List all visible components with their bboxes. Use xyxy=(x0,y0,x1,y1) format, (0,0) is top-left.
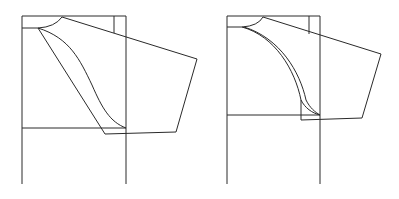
pattern-diagram xyxy=(0,0,399,199)
right-neckline-curve xyxy=(242,17,263,27)
right-panel xyxy=(227,16,381,184)
left-armhole-curve xyxy=(38,28,126,128)
left-sleeve-outline xyxy=(38,17,197,134)
right-armhole-curve-outer xyxy=(242,27,320,115)
left-panel xyxy=(22,16,197,184)
right-armhole-curve-inner xyxy=(244,27,320,115)
left-neckline-curve xyxy=(38,17,62,28)
right-sleeve-outline xyxy=(263,17,381,120)
